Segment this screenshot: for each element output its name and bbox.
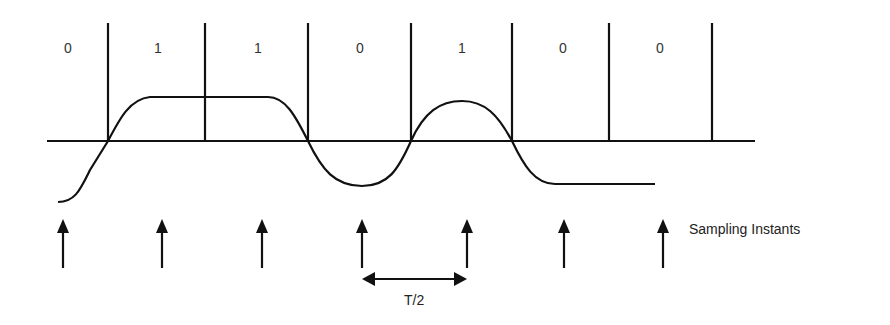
interval-label: T/2 [404,292,424,308]
arrow-head-icon [57,219,69,233]
arrow-head-icon [657,219,669,233]
arrow-head-icon [156,219,168,233]
arrow-head-icon [558,219,570,233]
arrow-head-icon [356,219,368,233]
bit-label: 1 [458,40,466,56]
bit-label: 0 [64,40,72,56]
bit-label: 1 [254,40,262,56]
bit-label: 1 [154,40,162,56]
waveform-canvas [0,0,890,325]
sampling-instants-label: Sampling Instants [689,221,800,237]
bit-label: 0 [656,40,664,56]
bit-label: 0 [356,40,364,56]
bit-boundaries [108,23,712,141]
arrow-head-icon [461,219,473,233]
nrz-sampling-diagram: 0110100 Sampling Instants T/2 [0,0,890,325]
signal-waveform [58,97,655,202]
sampling-arrows [63,232,663,268]
bit-label: 0 [559,40,567,56]
arrow-head-icon [256,219,268,233]
